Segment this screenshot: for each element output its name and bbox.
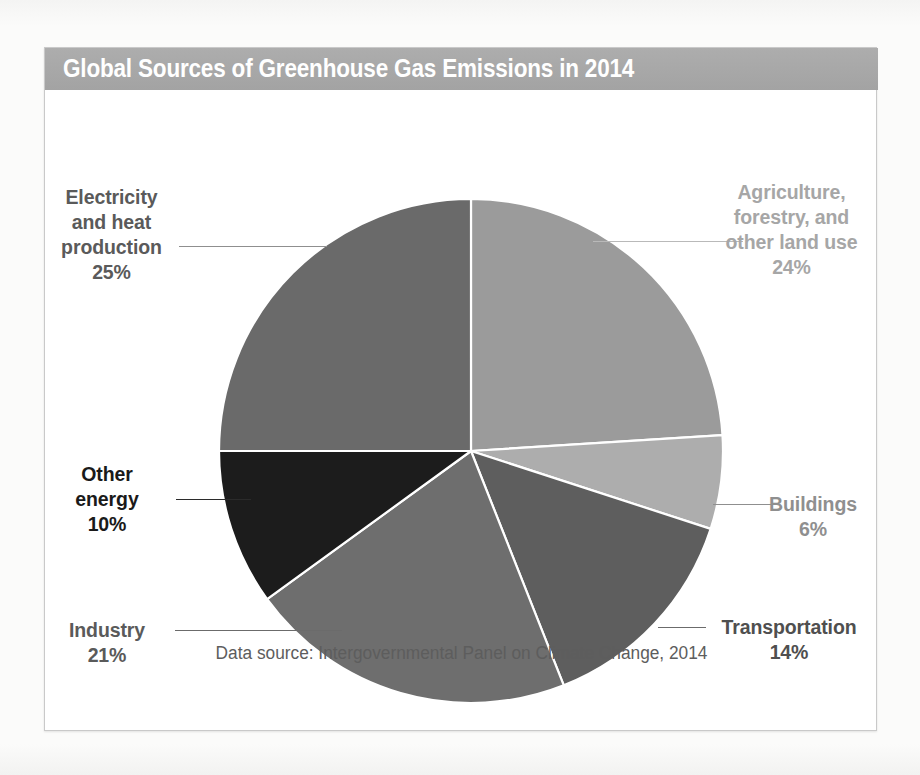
slice-label-transportation-line-1: Transportation — [700, 615, 878, 640]
slice-label-agriculture-line-1: Agriculture, — [705, 180, 878, 205]
slice-value-agriculture: 24% — [705, 255, 878, 280]
chart-area: Electricity and heat production 25% Agri… — [45, 90, 878, 730]
slice-label-buildings-line-1: Buildings — [748, 492, 878, 517]
leader-line-electricity — [179, 246, 327, 247]
slice-label-electricity-line-3: production — [45, 235, 178, 260]
pie-slice-agriculture[interactable] — [471, 199, 723, 451]
pie-chart — [218, 198, 724, 704]
page-root: Global Sources of Greenhouse Gas Emissio… — [0, 0, 920, 775]
slice-label-agriculture: Agriculture, forestry, and other land us… — [705, 180, 878, 280]
slice-label-other-energy-line-2: energy — [45, 487, 169, 512]
slice-label-industry-line-1: Industry — [45, 618, 169, 643]
slice-value-buildings: 6% — [748, 517, 878, 542]
slice-label-buildings: Buildings 6% — [748, 492, 878, 542]
leader-line-transportation — [658, 627, 706, 628]
slice-label-electricity: Electricity and heat production 25% — [45, 185, 178, 285]
pie-slice-electricity[interactable] — [219, 199, 471, 451]
slice-label-agriculture-line-2: forestry, and — [705, 205, 878, 230]
slice-label-electricity-line-2: and heat — [45, 210, 178, 235]
slice-value-electricity: 25% — [45, 260, 178, 285]
data-source-note: Data source: Intergovernmental Panel on … — [62, 643, 862, 664]
slice-label-electricity-line-1: Electricity — [45, 185, 178, 210]
slice-label-other-energy: Other energy 10% — [45, 462, 169, 537]
pie-chart-svg — [218, 198, 724, 704]
slice-value-other-energy: 10% — [45, 512, 169, 537]
slice-label-other-energy-line-1: Other — [45, 462, 169, 487]
page-title: Global Sources of Greenhouse Gas Emissio… — [63, 54, 634, 83]
leader-line-other-energy — [176, 499, 251, 500]
leader-line-industry — [175, 630, 342, 631]
chart-card: Global Sources of Greenhouse Gas Emissio… — [44, 47, 877, 731]
chart-title-banner: Global Sources of Greenhouse Gas Emissio… — [45, 48, 878, 90]
slice-label-agriculture-line-3: other land use — [705, 230, 878, 255]
